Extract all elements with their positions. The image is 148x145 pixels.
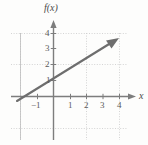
grid-lines	[11, 33, 127, 140]
x-tick-label-2: 2	[84, 101, 89, 110]
y-axis-arrowhead	[50, 20, 56, 28]
function-line	[17, 38, 119, 101]
coordinate-plane	[0, 0, 148, 145]
y-tick-label-4: 4	[45, 29, 50, 38]
x-tick-label-neg1: −1	[31, 101, 41, 110]
graph-figure: f(x) x 4 3 2 1 −1 1 2 3 4	[0, 0, 148, 145]
y-tick-label-2: 2	[45, 60, 50, 69]
x-tick-label-1: 1	[68, 101, 73, 110]
y-tick-label-3: 3	[45, 44, 50, 53]
function-line-arrowhead	[106, 38, 119, 49]
x-axis-arrowhead	[128, 93, 136, 99]
x-tick-label-4: 4	[117, 101, 122, 110]
x-axis-title: x	[139, 91, 143, 101]
y-tick-label-1: 1	[46, 76, 51, 85]
x-tick-label-3: 3	[100, 101, 105, 110]
y-axis-title: f(x)	[44, 3, 58, 13]
